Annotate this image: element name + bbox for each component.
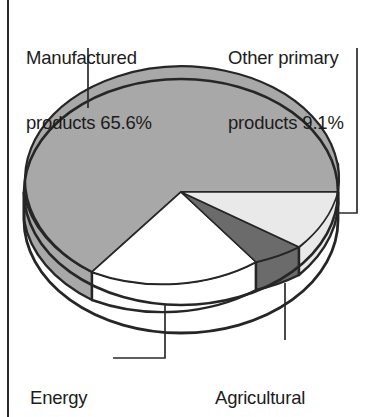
slice-label-agricultural-line1: Agricultural: [215, 387, 331, 409]
slice-label-other-primary-line2: products 9.1%: [228, 112, 344, 134]
slice-label-manufactured-line1: Manufactured: [26, 47, 152, 69]
slice-label-manufactured-line2: products 65.6%: [26, 112, 152, 134]
slice-label-other-primary: Other primary products 9.1%: [228, 4, 344, 176]
slice-label-other-primary-line1: Other primary: [228, 47, 344, 69]
slice-label-energy-line1: Energy: [30, 387, 87, 409]
slice-label-manufactured: Manufactured products 65.6%: [26, 4, 152, 176]
slice-label-energy: Energy 17.6%: [30, 344, 87, 417]
pie-chart-figure: Manufactured products 65.6% Other primar…: [0, 0, 385, 417]
slice-label-agricultural: Agricultural products 7.7%: [215, 344, 331, 417]
